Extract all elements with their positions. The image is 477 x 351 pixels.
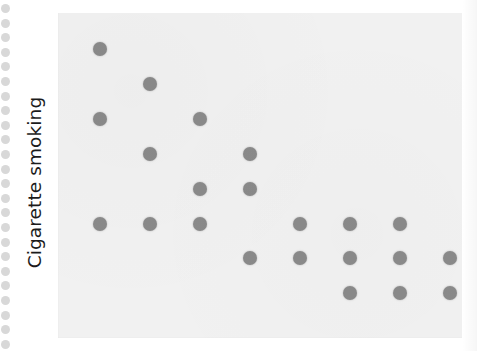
scatter-point (193, 112, 207, 126)
y-axis-label-area: Cigarette smoking (0, 0, 58, 351)
scatter-plot-panel (58, 13, 462, 338)
page-edge-shadow (462, 0, 477, 351)
scatter-point (393, 286, 407, 300)
scatter-point (143, 217, 157, 231)
scatter-point (243, 251, 257, 265)
scatter-point (443, 251, 457, 265)
scatter-point (293, 251, 307, 265)
scanned-book-page: Cigarette smoking (0, 0, 477, 351)
scatter-point (393, 251, 407, 265)
scatter-point (143, 147, 157, 161)
scatter-point (393, 217, 407, 231)
scatter-point (93, 42, 107, 56)
scatter-point (293, 217, 307, 231)
scatter-point (193, 182, 207, 196)
scatter-point (243, 182, 257, 196)
scatter-point (343, 251, 357, 265)
scatter-point (193, 217, 207, 231)
scatter-point (143, 77, 157, 91)
scatter-point (243, 147, 257, 161)
scatter-point (343, 286, 357, 300)
scatter-point (343, 217, 357, 231)
scatter-point (443, 286, 457, 300)
scatter-point (93, 112, 107, 126)
y-axis-label: Cigarette smoking (24, 83, 45, 283)
scatter-point (93, 217, 107, 231)
